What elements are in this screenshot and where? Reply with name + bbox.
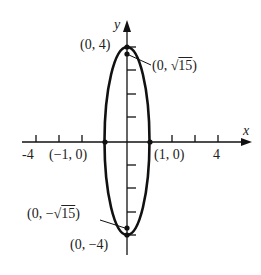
x-axis-arrow-icon bbox=[241, 138, 252, 146]
label-radicand: 15 bbox=[61, 206, 75, 221]
x-axis bbox=[22, 135, 244, 142]
point-neg1-0 bbox=[102, 139, 107, 144]
label-suffix: ) bbox=[75, 206, 80, 221]
graph-canvas bbox=[0, 0, 261, 275]
label-suffix: ) bbox=[192, 58, 197, 73]
y-axis-arrow-icon bbox=[123, 20, 131, 32]
leader-neg-sqrt15 bbox=[100, 220, 125, 228]
label-neg1-0: (−1, 0) bbox=[49, 148, 87, 162]
label-1-0: (1, 0) bbox=[154, 148, 184, 162]
label-0-neg4: (0, −4) bbox=[70, 238, 108, 252]
point-0-4 bbox=[124, 44, 129, 49]
label-0-neg-sqrt15: (0, −√15) bbox=[27, 207, 80, 221]
point-0-negsqrt15 bbox=[124, 225, 129, 230]
point-0-sqrt15 bbox=[124, 51, 129, 56]
label-prefix: (0, − bbox=[27, 206, 54, 221]
tick-label-4: 4 bbox=[213, 148, 220, 162]
x-axis-label: x bbox=[243, 124, 249, 138]
label-0-4: (0, 4) bbox=[80, 38, 110, 52]
label-prefix: (0, bbox=[152, 58, 171, 73]
label-0-sqrt15: (0, √15) bbox=[152, 59, 197, 73]
point-0-neg4 bbox=[124, 232, 129, 237]
point-1-0 bbox=[147, 139, 152, 144]
ellipse-diagram: y x (0, 4) (0, √15) -4 (−1, 0) (1, 0) 4 … bbox=[0, 0, 261, 275]
y-axis-label: y bbox=[114, 18, 120, 32]
label-radicand: 15 bbox=[178, 58, 192, 73]
tick-label-neg4: -4 bbox=[22, 148, 34, 162]
